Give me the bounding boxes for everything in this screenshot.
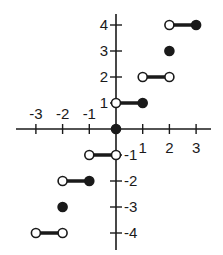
- closed-dot: [138, 99, 147, 108]
- step-function-graph: -3-2-11234321-1-2-3-4: [0, 0, 223, 255]
- y-tick-label: 4: [100, 16, 108, 33]
- open-dot: [112, 99, 121, 108]
- y-tick-label: -3: [124, 198, 137, 215]
- x-tick-label: -3: [29, 105, 42, 122]
- open-dot: [58, 229, 67, 238]
- open-dot: [138, 73, 147, 82]
- x-tick-label: -2: [56, 105, 69, 122]
- x-tick-label: 2: [165, 139, 173, 156]
- open-dot: [112, 151, 121, 160]
- closed-dot: [192, 21, 201, 30]
- x-tick-label: 3: [192, 139, 200, 156]
- closed-dot: [58, 203, 67, 212]
- open-dot: [31, 229, 40, 238]
- y-tick-label: 2: [100, 68, 108, 85]
- open-dot: [85, 151, 94, 160]
- y-tick-label: -1: [124, 146, 137, 163]
- closed-dot: [85, 177, 94, 186]
- x-tick-label: 1: [139, 139, 147, 156]
- x-tick-label: -1: [83, 105, 96, 122]
- y-tick-label: -2: [124, 172, 137, 189]
- y-tick-label: 3: [100, 42, 108, 59]
- y-tick-label: 1: [100, 94, 108, 111]
- closed-dot: [165, 47, 174, 56]
- open-dot: [165, 73, 174, 82]
- open-dot: [165, 21, 174, 30]
- y-tick-label: -4: [124, 224, 137, 241]
- closed-dot: [112, 125, 121, 134]
- open-dot: [58, 177, 67, 186]
